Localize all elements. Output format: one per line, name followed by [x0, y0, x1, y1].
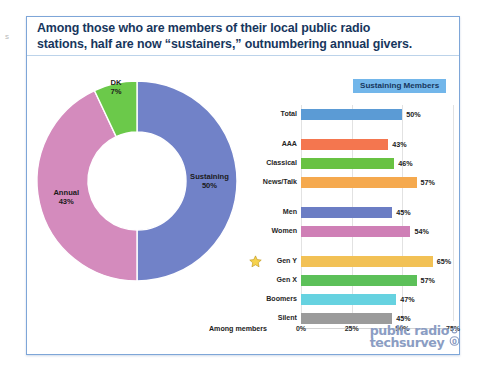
bar-value-label: 65% — [437, 256, 451, 267]
bar-value-label: 46% — [398, 158, 412, 169]
donut-label-value: 50% — [202, 181, 217, 190]
bar-category-label: News/Talk — [249, 177, 297, 188]
donut-label-value: 7% — [110, 87, 121, 96]
bar-gen-x — [301, 275, 417, 286]
bar-category-label: Silent — [249, 313, 297, 324]
bar-value-label: 45% — [396, 207, 410, 218]
bar-gen-y — [301, 256, 433, 267]
logo-circle-icon: 0 — [449, 326, 460, 352]
bar-news-talk — [301, 177, 417, 188]
bar-value-label: 43% — [392, 139, 406, 150]
bar-row: Boomers47% — [249, 294, 457, 305]
x-tick-25: 25% — [345, 325, 359, 332]
bar-category-label: Gen Y — [249, 256, 297, 267]
legend-sustaining-members: Sustaining Members — [353, 79, 446, 93]
bar-total — [301, 109, 402, 120]
bar-row: News/Talk57% — [249, 177, 457, 188]
bar-category-label: Classical — [249, 158, 297, 169]
bar-men — [301, 207, 392, 218]
donut-label-value: 43% — [59, 197, 74, 206]
bar-row: Total50% — [249, 109, 457, 120]
donut-slice-sustaining — [137, 81, 237, 281]
x-tick-0: 0% — [296, 325, 306, 332]
logo: public radio techsurvey 0 — [370, 325, 449, 348]
donut-svg: Sustaining50%Annual43%DK7% — [31, 61, 249, 331]
bar-women — [301, 226, 410, 237]
bar-row: Women54% — [249, 226, 457, 237]
bar-plot-area: Total50%AAA43%Classical46%News/Talk57%Me… — [249, 105, 457, 335]
bar-value-label: 54% — [414, 226, 428, 237]
donut-label-name: Annual — [53, 188, 79, 197]
bar-classical — [301, 158, 394, 169]
slide-canvas: Among those who are members of their loc… — [26, 16, 460, 355]
bar-category-label: Women — [249, 226, 297, 237]
bar-value-label: 57% — [421, 177, 435, 188]
bar-row: Classical46% — [249, 158, 457, 169]
edge-artifact: s — [5, 32, 9, 41]
bar-row: Gen Y65% — [249, 256, 457, 267]
bar-value-label: 50% — [406, 109, 420, 120]
bar-boomers — [301, 294, 396, 305]
bar-value-label: 47% — [400, 294, 414, 305]
bar-category-label: AAA — [249, 139, 297, 150]
bar-aaa — [301, 139, 388, 150]
page-title: Among those who are members of their loc… — [37, 21, 451, 52]
bar-category-label: Boomers — [249, 294, 297, 305]
bar-category-label: Men — [249, 207, 297, 218]
donut-label-name: DK — [110, 78, 121, 87]
bar-row: Men45% — [249, 207, 457, 218]
bar-value-label: 57% — [421, 275, 435, 286]
title-bar: Among those who are members of their loc… — [27, 17, 459, 56]
bar-chart: Sustaining Members Total50%AAA43%Classic… — [249, 61, 457, 353]
bar-category-label: Gen X — [249, 275, 297, 286]
logo-line-2: techsurvey — [370, 337, 449, 349]
svg-text:0: 0 — [452, 338, 457, 346]
donut-chart: Sustaining50%Annual43%DK7% — [31, 61, 249, 331]
donut-label-name: Sustaining — [190, 172, 229, 181]
bar-category-label: Total — [249, 109, 297, 120]
bar-row: Gen X57% — [249, 275, 457, 286]
bar-row: AAA43% — [249, 139, 457, 150]
axis-note: Among members — [209, 325, 267, 333]
